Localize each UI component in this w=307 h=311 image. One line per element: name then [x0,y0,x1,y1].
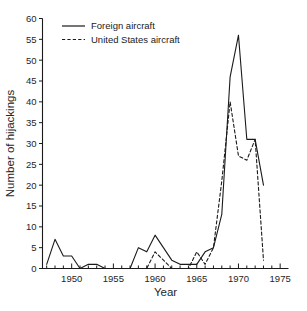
y-tick-label-10: 10 [26,221,37,232]
axis-spines [43,19,289,269]
y-tick-label-35: 35 [26,117,37,128]
x-axis-title: Year [154,286,177,298]
y-tick-label-0: 0 [31,263,36,274]
x-tick-label-1955: 1955 [103,273,124,284]
y-tick-label-20: 20 [26,180,37,191]
y-tick-label-5: 5 [31,242,36,253]
x-tick-label-1970: 1970 [228,273,249,284]
legend-label-united-states-aircraft: United States aircraft [91,34,180,45]
y-tick-label-45: 45 [26,75,37,86]
y-tick-label-40: 40 [26,96,37,107]
hijackings-line-chart: 0510152025303540455055601950195519601965… [0,0,307,311]
y-tick-label-55: 55 [26,34,37,45]
x-tick-label-1960: 1960 [145,273,166,284]
y-tick-label-15: 15 [26,200,37,211]
x-tick-label-1950: 1950 [61,273,82,284]
y-axis-title: Number of hijackings [4,90,16,198]
legend-label-foreign-aircraft: Foreign aircraft [91,20,155,31]
y-tick-label-25: 25 [26,159,37,170]
y-tick-label-50: 50 [26,55,37,66]
chart-canvas: 0510152025303540455055601950195519601965… [0,0,307,311]
series-line-united-states-aircraft [47,102,264,269]
y-tick-label-30: 30 [26,138,37,149]
y-tick-label-60: 60 [26,13,37,24]
series-line-foreign-aircraft [47,35,264,268]
x-tick-label-1975: 1975 [270,273,291,284]
x-tick-label-1965: 1965 [186,273,207,284]
